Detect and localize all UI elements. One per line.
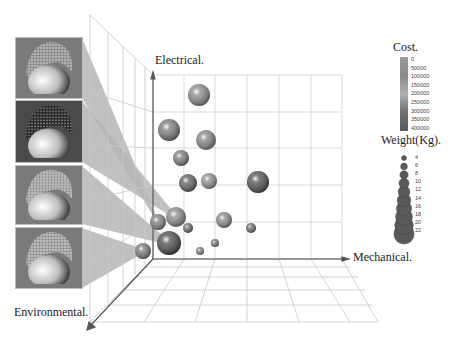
data-bubble bbox=[183, 223, 193, 233]
weight-tick-label: 18 bbox=[415, 211, 421, 217]
cost-tick-label: 300000 bbox=[411, 108, 429, 114]
cost-tick-label: 0 bbox=[411, 56, 414, 62]
design-thumbnail-3 bbox=[16, 166, 82, 224]
weight-legend-circle bbox=[401, 163, 408, 170]
data-bubble bbox=[211, 239, 219, 247]
mechanical-axis-arrow-icon bbox=[342, 257, 349, 261]
environmental-axis-label: Environmental. bbox=[14, 305, 88, 320]
data-bubble bbox=[157, 231, 181, 255]
cost-tick-label: 100000 bbox=[411, 73, 429, 79]
data-bubble bbox=[150, 214, 166, 230]
weight-tick-label: 16 bbox=[415, 203, 421, 209]
weight-tick-label: 8 bbox=[415, 170, 418, 176]
weight-tick-label: 4 bbox=[415, 154, 418, 160]
design-thumbnail-1 bbox=[16, 38, 82, 98]
data-bubble bbox=[179, 174, 197, 192]
data-bubble bbox=[196, 130, 216, 150]
data-bubble bbox=[158, 119, 180, 141]
cost-legend-title: Cost. bbox=[393, 40, 418, 55]
data-bubble bbox=[135, 243, 151, 259]
weight-tick-label: 22 bbox=[415, 227, 421, 233]
data-bubble bbox=[196, 247, 204, 255]
floor-grid bbox=[90, 259, 378, 322]
cost-tick-label: 350000 bbox=[411, 116, 429, 122]
weight-legend-circle bbox=[400, 171, 408, 179]
weight-tick-label: 14 bbox=[415, 195, 421, 201]
data-bubble bbox=[216, 212, 232, 228]
cost-colorbar bbox=[400, 57, 408, 131]
weight-legend-title: Weight(Kg). bbox=[381, 133, 441, 148]
data-bubble bbox=[246, 223, 256, 233]
design-thumbnail-2 bbox=[16, 101, 82, 162]
weight-legend-circle bbox=[402, 156, 407, 161]
electrical-axis-label: Electrical. bbox=[155, 53, 204, 68]
cost-tick-label: 150000 bbox=[411, 82, 429, 88]
cost-tick-label: 200000 bbox=[411, 90, 429, 96]
data-bubble bbox=[173, 150, 189, 166]
data-bubble bbox=[247, 171, 269, 193]
weight-size-legend bbox=[394, 156, 414, 245]
weight-tick-label: 10 bbox=[415, 178, 421, 184]
weight-tick-label: 12 bbox=[415, 186, 421, 192]
cost-tick-label: 50000 bbox=[411, 65, 426, 71]
weight-tick-label: 20 bbox=[415, 219, 421, 225]
environmental-axis-arrow-icon bbox=[87, 322, 95, 330]
weight-legend-circle bbox=[399, 178, 409, 188]
mechanical-axis-label: Mechanical. bbox=[353, 250, 412, 265]
electrical-axis-arrow-icon bbox=[151, 72, 155, 79]
data-bubble bbox=[188, 84, 210, 106]
design-thumbnail-4 bbox=[16, 228, 82, 288]
weight-tick-label: 6 bbox=[415, 162, 418, 168]
axes bbox=[87, 72, 349, 330]
cost-tick-label: 250000 bbox=[411, 99, 429, 105]
cost-tick-label: 400000 bbox=[411, 125, 429, 131]
bubble-chart-3d: Electrical. Mechanical. Environmental. C… bbox=[0, 0, 464, 342]
data-bubble bbox=[166, 207, 186, 227]
data-bubble bbox=[201, 173, 217, 189]
